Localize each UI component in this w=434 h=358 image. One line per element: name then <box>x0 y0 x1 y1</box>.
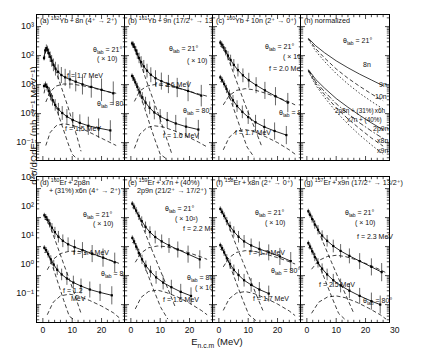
panel-label: (a) <box>40 16 49 25</box>
annotation-d-0: θlab = 21° <box>83 211 112 219</box>
curve-label-h-3: 2p8n + (31%) x6n <box>335 107 385 115</box>
panel-label: (d) <box>40 178 49 187</box>
x-tick-label: 0 <box>297 325 317 335</box>
annotation-f-0: θlab = 21° <box>255 209 284 217</box>
annotation-b-4: f = 1.6 MeV <box>163 132 199 140</box>
annotation-c-0: θlab = 21° <box>265 43 294 51</box>
annotation-g-0: θlab = 21° <box>345 209 374 217</box>
curve-label-h-5: 2p9n <box>373 125 389 133</box>
panel-title-h: (h) normalized <box>304 17 350 25</box>
y-tick-label: 10² <box>4 202 34 211</box>
curve-label-h-1: 9n <box>379 81 387 89</box>
annotation-e-5: f = 1.6 MeV <box>163 296 199 304</box>
panel-h[interactable]: (h) normalizedθlab = 21°8n9n10n2p8n + (3… <box>300 14 390 161</box>
panel-title-d-line2: + (31%) x6n (4⁺ → 2⁺) <box>49 187 120 195</box>
annotation-f-3: θlab = 80° <box>271 267 300 275</box>
x-tick-label: 20 <box>268 325 288 335</box>
panel-label: (c) <box>216 16 224 25</box>
y-tick-label: 10⁰ <box>4 260 34 269</box>
panel-title-e-line2: 2p9n (21/2⁺ → 17/2⁺) <box>137 187 207 195</box>
annotation-g-3: f = 2.5 MeV <box>319 281 355 289</box>
x-tick-label: 10 <box>326 325 346 335</box>
panel-c[interactable]: (c) 160Yb + 10n (2⁺ → 0⁺)θlab = 21°( × 1… <box>212 14 302 161</box>
panel-f[interactable]: (f) 158Er + x8n (2⁺ → 0⁺)θlab = 21°( × 1… <box>212 176 302 323</box>
annotation-f-1: ( × 10) <box>265 219 285 227</box>
panel-label: (h) <box>304 16 313 25</box>
annotation-a-0: θlab = 21° <box>93 46 122 54</box>
annotation-b-2: f = 1.6 MeV <box>155 81 191 89</box>
x-tick-label: 10 <box>238 325 258 335</box>
panel-e[interactable]: (e) 159Er + x7n + (40%)2p9n (21/2⁺ → 17/… <box>124 176 214 323</box>
curve-label-h-7: x9n <box>377 147 388 155</box>
y-tick-label: 10³ <box>4 22 34 31</box>
panel-b[interactable]: (b) 161Yb + 9n (17/2⁺ → 13/2⁺)θlab = 21°… <box>124 14 214 161</box>
panel-label: (e) <box>128 178 137 187</box>
panel-title-g: (g) 157Er + x9n (17/2⁺ → 13/2⁺) <box>304 179 403 187</box>
curve-label-h-6: x8n <box>377 137 388 145</box>
y-tick-label: 10² <box>4 51 34 60</box>
annotation-h-0: θlab = 21° <box>343 37 372 45</box>
annotation-d-2: f = 1.4 MeV <box>73 249 109 257</box>
y-tick-label: 10³ <box>4 173 34 182</box>
annotation-g-2: f = 2.3 MeV <box>357 233 393 241</box>
x-tick-label: 20 <box>356 325 376 335</box>
panel-a[interactable]: (a) 162Yb + 8n (4⁺ → 2⁺)θlab = 21°( × 10… <box>36 14 126 161</box>
panel-g[interactable]: (g) 157Er + x9n (17/2⁺ → 13/2⁺)θlab = 21… <box>300 176 390 323</box>
y-tick-label: 10¹ <box>4 80 34 89</box>
x-axis-label: En.c.m (MeV) <box>0 336 434 347</box>
annotation-d-5: MeV <box>71 295 85 303</box>
panel-label: (f) <box>216 178 223 187</box>
y-tick-label: 10⁻¹ <box>4 138 34 147</box>
panel-label: (b) <box>128 16 137 25</box>
panel-d[interactable]: (d) 160Er + 2p8n+ (31%) x6n (4⁺ → 2⁺)θla… <box>36 176 126 323</box>
panel-label: (g) <box>304 178 313 187</box>
y-tick-label: 10¹ <box>4 231 34 240</box>
annotation-b-1: ( × 10) <box>187 57 207 65</box>
annotation-d-1: ( × 10) <box>93 220 113 228</box>
annotation-a-2: f = 1.7 MeV <box>67 72 103 80</box>
annotation-b-0: θlab = 21° <box>169 45 198 53</box>
annotation-g-1: ( × 10) <box>355 219 375 227</box>
y-tick-label: 10⁻¹ <box>4 289 34 298</box>
y-tick-label: 10⁰ <box>4 109 34 118</box>
annotation-a-4: f = 1.5 MeV <box>65 125 101 133</box>
curve-label-h-2: 10n <box>375 93 387 101</box>
annotation-e-1: ( × 10²) <box>175 215 198 223</box>
curve-label-h-4: x7n + (40%) <box>347 116 382 124</box>
annotation-f-4: f = 1.7 MeV <box>253 295 289 303</box>
panel-title-a: (a) 162Yb + 8n (4⁺ → 2⁺) <box>40 17 117 25</box>
x-tick-label: 10 <box>150 325 170 335</box>
figure-root: d²σ/dΩdEn (mb sr⁻¹ MeV⁻¹) 10³ 10² 10¹ 10… <box>0 0 434 358</box>
annotation-b-3: θlab = 80° <box>183 107 212 115</box>
annotation-a-3: θlab = 80° <box>97 100 126 108</box>
annotation-d-4: f = 1.2 <box>63 287 83 295</box>
x-tick-label: 30 <box>385 325 405 335</box>
panel-title-f: (f) 158Er + x8n (2⁺ → 0⁺) <box>216 179 293 187</box>
x-tick-label: 10 <box>62 325 82 335</box>
x-tick-label: 0 <box>209 325 229 335</box>
x-tick-label: 20 <box>180 325 200 335</box>
annotation-c-4: f = 1.7 MeV <box>235 129 271 137</box>
annotation-a-1: ( × 10) <box>97 55 117 63</box>
panel-title-b: (b) 161Yb + 9n (17/2⁺ → 13/2⁺) <box>128 17 225 25</box>
annotation-g-4: θlab = 80° <box>363 297 392 305</box>
x-tick-label: 0 <box>33 325 53 335</box>
x-tick-label: 20 <box>92 325 112 335</box>
panel-title-c: (c) 160Yb + 10n (2⁺ → 0⁺) <box>216 17 296 25</box>
curve-label-h-0: 8n <box>363 61 371 69</box>
annotation-e-0: θlab = 21° <box>165 205 194 213</box>
x-tick-label: 0 <box>121 325 141 335</box>
annotation-f-2: f = 1.7 MeV <box>249 249 285 257</box>
